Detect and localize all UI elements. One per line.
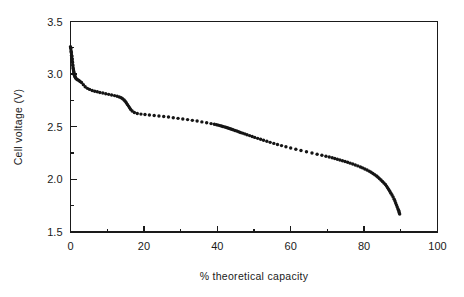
data-point	[398, 212, 401, 215]
data-point	[262, 139, 265, 142]
data-point	[265, 140, 268, 143]
y-tick-label-3.5: 3.5	[47, 16, 62, 28]
data-point	[104, 92, 107, 95]
data-point	[200, 120, 203, 123]
discharge-curve-chart: 020406080100 1.52.02.53.03.5 % theoretic…	[0, 0, 464, 297]
data-point	[299, 149, 302, 152]
x-tick-label-60: 60	[285, 240, 297, 252]
data-point	[181, 117, 184, 120]
data-point	[272, 142, 275, 145]
data-point	[256, 137, 259, 140]
data-point	[162, 115, 165, 118]
data-series-discharge-curve	[69, 45, 402, 216]
x-tick-label-20: 20	[138, 240, 150, 252]
data-point	[98, 91, 101, 94]
data-point	[294, 148, 297, 151]
x-tick-label-40: 40	[211, 240, 223, 252]
plot-frame	[71, 22, 438, 233]
data-point	[139, 112, 142, 115]
y-tick-label-1.5: 1.5	[47, 226, 62, 238]
data-point	[152, 114, 155, 117]
data-point	[172, 116, 175, 119]
data-point	[143, 113, 146, 116]
data-point	[191, 119, 194, 122]
data-point	[101, 91, 104, 94]
data-point	[320, 154, 323, 157]
data-point	[209, 122, 212, 125]
data-point	[280, 144, 283, 147]
chart-figure: 020406080100 1.52.02.53.03.5 % theoretic…	[0, 0, 464, 297]
data-point	[305, 150, 308, 153]
y-tick-label-2.5: 2.5	[47, 121, 62, 133]
data-point	[195, 119, 198, 122]
data-point	[148, 113, 151, 116]
data-point	[328, 155, 331, 158]
data-point	[284, 145, 287, 148]
data-point	[205, 121, 208, 124]
x-tick-label-0: 0	[67, 240, 73, 252]
y-tick-label-3: 3.0	[47, 68, 62, 80]
x-tick-label-80: 80	[358, 240, 370, 252]
data-point	[253, 136, 256, 139]
data-point	[136, 112, 139, 115]
data-point	[268, 141, 271, 144]
data-point	[110, 93, 113, 96]
data-point	[133, 111, 136, 114]
data-point	[186, 118, 189, 121]
data-point	[176, 117, 179, 120]
data-point	[276, 143, 279, 146]
y-tick-label-2: 2.0	[47, 173, 62, 185]
data-point	[157, 114, 160, 117]
data-point	[259, 138, 262, 141]
y-axis-title: Cell voltage (V)	[12, 89, 24, 166]
data-point	[167, 115, 170, 118]
x-tick-label-100: 100	[428, 240, 446, 252]
data-point	[107, 93, 110, 96]
data-point	[289, 146, 292, 149]
y-axis-tick-labels: 1.52.02.53.03.5	[47, 16, 62, 239]
data-point	[315, 153, 318, 156]
x-axis-title: % theoretical capacity	[200, 270, 309, 282]
data-point	[324, 155, 327, 158]
data-point	[310, 151, 313, 154]
x-axis-tick-labels: 020406080100	[67, 240, 446, 252]
